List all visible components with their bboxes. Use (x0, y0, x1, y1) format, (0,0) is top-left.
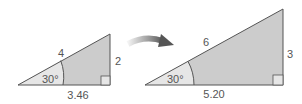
small-angle-label: 30° (42, 73, 59, 85)
small-triangle: 4 2 3.46 30° (18, 34, 121, 101)
similar-triangles-diagram: 4 2 3.46 30° 6 3 5.20 30° (0, 0, 302, 104)
small-hypotenuse-label: 4 (58, 47, 64, 59)
large-hypotenuse-label: 6 (203, 36, 209, 48)
small-right-angle-marker (101, 76, 110, 85)
large-triangle: 6 3 5.20 30° (145, 9, 293, 100)
small-opposite-label: 2 (115, 55, 121, 67)
large-right-angle-marker (273, 75, 283, 85)
small-adjacent-label: 3.46 (67, 89, 88, 101)
large-opposite-label: 3 (287, 48, 293, 60)
large-angle-label: 30° (167, 73, 184, 85)
large-adjacent-label: 5.20 (203, 88, 224, 100)
scale-arrow-icon (128, 34, 174, 47)
